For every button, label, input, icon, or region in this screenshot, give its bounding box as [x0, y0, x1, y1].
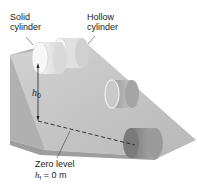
solid-cylinder-label: Solid cylinder	[10, 12, 41, 32]
initial-height-label: h0	[32, 88, 41, 101]
hollow-cylinder-leader	[88, 36, 95, 44]
solid-cylinder-bottom	[123, 128, 163, 158]
solid-cylinder-top	[32, 42, 67, 74]
hollow-cylinder-middle	[105, 80, 139, 108]
final-height-label: hf = 0 m	[35, 170, 66, 183]
zero-level-label: Zero level	[35, 159, 75, 169]
diagram: Solid cylinder Hollow cylinder h0 Zero l…	[0, 0, 197, 184]
final-height-value: = 0 m	[41, 170, 66, 180]
solid-cylinder-leader	[26, 37, 33, 45]
initial-height-subscript: 0	[37, 92, 41, 99]
hollow-cylinder-label: Hollow cylinder	[87, 12, 118, 32]
